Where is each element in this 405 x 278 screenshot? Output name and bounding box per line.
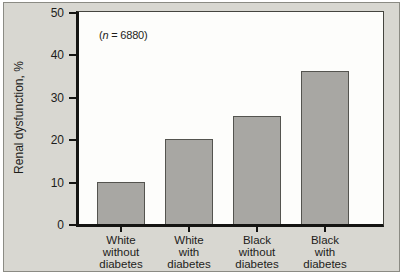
bar-black-without-diabetes: [233, 116, 281, 224]
bars: [79, 12, 383, 224]
x-tick-mark-3: [256, 227, 258, 232]
y-tick-mark-40: [69, 54, 76, 56]
y-tick-label-0: 0: [26, 219, 64, 231]
x-category-label-line: with: [285, 246, 365, 258]
y-tick-label-40: 40: [26, 49, 64, 61]
y-tick-mark-50: [69, 12, 76, 14]
y-tick-mark-0: [69, 224, 76, 226]
x-tick-mark-4: [324, 227, 326, 232]
bar-white-without-diabetes: [97, 182, 145, 224]
bar-white-with-diabetes: [165, 139, 213, 224]
x-tick-mark-1: [120, 227, 122, 232]
y-tick-label-30: 30: [26, 92, 64, 104]
y-tick-label-10: 10: [26, 177, 64, 189]
x-category-label-line: Black: [285, 234, 365, 246]
y-tick-label-20: 20: [26, 134, 64, 146]
y-axis-title: Renal dysfunction, %: [12, 12, 27, 224]
y-tick-label-50: 50: [26, 7, 64, 19]
plot-area: (n = 6880): [76, 11, 384, 227]
y-tick-mark-30: [69, 97, 76, 99]
x-tick-mark-2: [188, 227, 190, 232]
figure-panel: Renal dysfunction, % (n = 6880) 01020304…: [3, 2, 400, 272]
y-tick-mark-10: [69, 182, 76, 184]
bar-black-with-diabetes: [301, 71, 349, 224]
y-tick-mark-20: [69, 139, 76, 141]
x-category-label-4: Blackwithdiabetes: [285, 234, 365, 270]
x-category-label-line: diabetes: [285, 258, 365, 270]
